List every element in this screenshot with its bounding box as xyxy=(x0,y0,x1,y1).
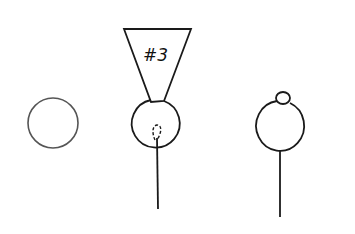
plain-circle-figure xyxy=(28,98,78,148)
stem xyxy=(157,138,158,209)
diagram-canvas: #3 xyxy=(0,0,355,234)
dashed-inner-loop xyxy=(153,125,161,140)
bump xyxy=(276,92,290,104)
funnel-circle-figure: #3 xyxy=(124,29,191,209)
funnel-bottom-circle xyxy=(132,100,180,148)
main-circle xyxy=(256,101,304,151)
funnel-shape xyxy=(124,29,191,102)
plain-circle xyxy=(28,98,78,148)
funnel-label: #3 xyxy=(143,45,168,65)
bump-circle-figure xyxy=(256,92,304,217)
